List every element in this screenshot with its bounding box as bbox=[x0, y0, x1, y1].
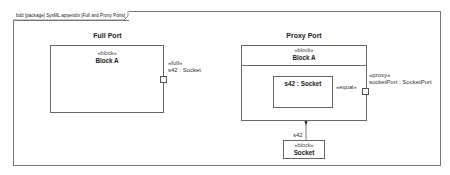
full-port-stereotype: «full» bbox=[168, 60, 182, 67]
socket-block[interactable]: «block» Socket bbox=[283, 140, 325, 159]
full-port-label: s42 : Socket bbox=[168, 67, 201, 74]
proxy-port-stereotype: «proxy» bbox=[369, 72, 390, 79]
block-stereotype: «block» bbox=[242, 47, 366, 54]
block-name: Block A bbox=[51, 57, 163, 65]
block-header-compartment: «block» Block A bbox=[242, 47, 366, 66]
full-port-block-a[interactable]: «block» Block A bbox=[50, 45, 164, 113]
full-port-title: Full Port bbox=[50, 32, 165, 39]
block-name: Block A bbox=[242, 54, 366, 62]
frame-header-corner bbox=[13, 11, 128, 20]
association-role-label: s42 bbox=[293, 132, 303, 139]
block-stereotype: «block» bbox=[284, 142, 324, 149]
block-name: Socket bbox=[284, 149, 324, 157]
equal-connector-label: «equal» bbox=[336, 84, 357, 91]
part-name: s42 : Socket bbox=[274, 80, 332, 88]
proxy-port-square[interactable] bbox=[362, 88, 369, 95]
proxy-port-label: socketPort : SocketPort bbox=[369, 79, 432, 86]
block-stereotype: «block» bbox=[51, 50, 163, 57]
proxy-port-title: Proxy Port bbox=[241, 32, 367, 39]
part-s42-socket[interactable]: s42 : Socket bbox=[273, 76, 333, 108]
full-port-square[interactable] bbox=[160, 76, 167, 83]
